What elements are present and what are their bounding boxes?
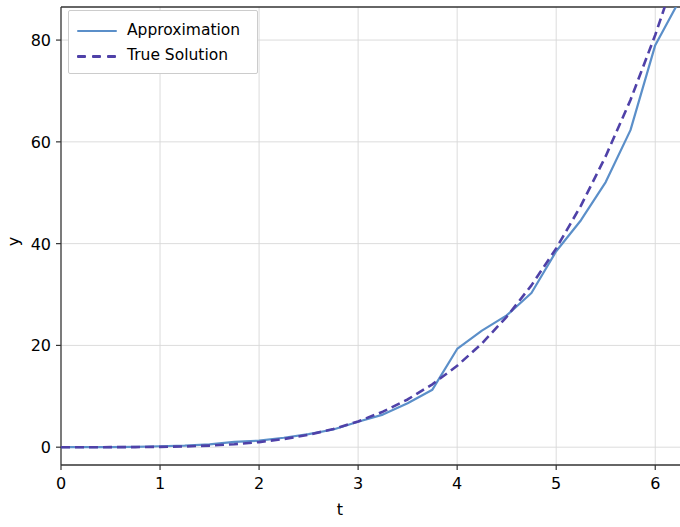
x-tick-label: 2 — [254, 474, 264, 493]
x-axis-label: t — [0, 500, 680, 519]
legend-label-approximation: Approximation — [127, 23, 240, 39]
legend-item-approximation: Approximation — [77, 18, 249, 43]
chart-legend: Approximation True Solution — [68, 10, 258, 74]
y-tick-label: 60 — [0, 132, 51, 151]
x-tick-label: 5 — [551, 474, 561, 493]
y-axis-label: y — [4, 222, 23, 262]
y-tick-label: 80 — [0, 31, 51, 50]
x-tick-label: 3 — [353, 474, 363, 493]
figure-canvas: 0123456 020406080 t y Approximation True… — [0, 0, 680, 527]
legend-solid-line-icon — [77, 30, 117, 32]
x-axis-ticks — [61, 465, 655, 470]
plot-area — [0, 0, 680, 527]
legend-dash-segment — [107, 55, 116, 58]
x-gridlines — [160, 7, 655, 465]
legend-swatch-true-solution — [77, 49, 117, 63]
legend-swatch-approximation — [77, 24, 117, 38]
legend-dash-segment — [77, 55, 86, 58]
x-tick-label: 4 — [452, 474, 462, 493]
y-gridlines — [61, 40, 680, 447]
x-tick-label: 0 — [56, 474, 66, 493]
y-axis-ticks — [56, 40, 61, 447]
legend-dash-segment — [92, 55, 101, 58]
legend-item-true-solution: True Solution — [77, 43, 249, 68]
x-tick-label: 1 — [155, 474, 165, 493]
x-tick-label: 6 — [650, 474, 660, 493]
y-tick-label: 0 — [0, 438, 51, 457]
legend-label-true-solution: True Solution — [127, 48, 228, 64]
y-tick-label: 20 — [0, 336, 51, 355]
